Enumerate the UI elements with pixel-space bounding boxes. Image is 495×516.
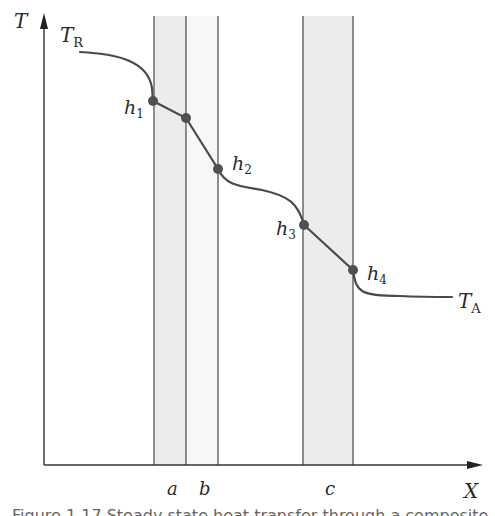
x-axis-label: X — [462, 479, 479, 503]
point-h3 — [299, 220, 309, 230]
start-temp-label: TR — [60, 23, 84, 50]
figure-caption: Figure 1.17 Steady state heat transfer t… — [12, 505, 492, 516]
label-h2: h2 — [232, 152, 252, 177]
label-h1: h1 — [124, 96, 144, 121]
point-h2 — [213, 164, 223, 174]
label-h3: h3 — [276, 217, 296, 242]
y-axis-label: T — [14, 9, 29, 33]
region-c-shade — [303, 16, 353, 465]
end-temp-label: TA — [458, 289, 481, 316]
region-a-label: a — [167, 478, 178, 499]
y-axis — [40, 13, 48, 465]
point-h4 — [348, 265, 358, 275]
point-mid-ab — [181, 113, 191, 123]
x-axis-arrow-icon — [467, 461, 483, 469]
region-c-label: c — [325, 478, 335, 499]
region-b-shade — [186, 16, 218, 465]
point-h1 — [148, 96, 158, 106]
temperature-profile-diagram: T X TR TA h1 h2 h3 h4 a b c — [0, 0, 495, 516]
x-axis — [44, 461, 483, 469]
region-b-label: b — [199, 478, 211, 499]
temperature-curve — [80, 52, 452, 297]
label-h4: h4 — [367, 262, 387, 287]
y-axis-arrow-icon — [40, 13, 48, 29]
region-a-shade — [154, 16, 186, 465]
